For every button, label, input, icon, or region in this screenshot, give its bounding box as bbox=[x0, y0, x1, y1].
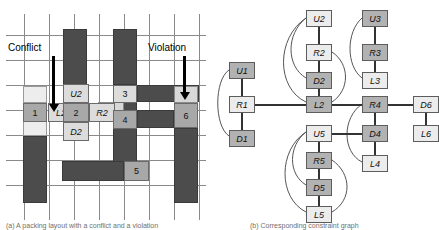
edge-U1-R1 bbox=[241, 79, 243, 96]
graph-node-L6[interactable]: L6 bbox=[413, 125, 439, 142]
cell-label-6: 6 bbox=[174, 103, 198, 128]
panel-b-caption: (b) Corresponding constraint graph bbox=[250, 222, 359, 229]
graph-node-R1[interactable]: R1 bbox=[229, 96, 255, 113]
panel-b-constraint-graph: U1 R1 D1 U2 R2 D2 L2 U3 R3 L3 R4 D4 L4 U… bbox=[210, 0, 421, 229]
graph-node-U3[interactable]: U3 bbox=[362, 10, 388, 27]
gridline-h bbox=[6, 60, 206, 61]
graph-node-D4[interactable]: D4 bbox=[362, 125, 388, 142]
edge-U3-R3 bbox=[374, 27, 376, 44]
edge-U3-L3 bbox=[350, 18, 362, 78]
piece-bar-dark bbox=[62, 161, 124, 181]
edge-D2-L2 bbox=[318, 89, 320, 96]
graph-node-U1[interactable]: U1 bbox=[229, 62, 255, 79]
piece-bar-light bbox=[23, 86, 47, 103]
edge-U2-R2 bbox=[318, 27, 320, 44]
edge-R5-L5 bbox=[332, 160, 347, 212]
edge-L2-R4 bbox=[332, 104, 362, 106]
edge-U5-D5 bbox=[293, 132, 307, 185]
edge-R3-L3 bbox=[374, 61, 376, 72]
edge-U2-D2 bbox=[291, 18, 306, 78]
cell-label-5: 5 bbox=[124, 161, 149, 181]
graph-node-U2[interactable]: U2 bbox=[306, 10, 332, 27]
edge-U5-L5 bbox=[285, 132, 306, 212]
edge-D6-L6 bbox=[425, 113, 427, 125]
edge-R5-D5 bbox=[318, 169, 320, 179]
conflict-label: Conflict bbox=[8, 42, 41, 53]
graph-node-D6[interactable]: D6 bbox=[413, 96, 439, 113]
graph-node-L2[interactable]: L2 bbox=[306, 96, 332, 113]
piece-bar-dark bbox=[63, 29, 87, 85]
piece-bar-dark bbox=[23, 136, 47, 203]
graph-node-U5[interactable]: U5 bbox=[306, 125, 332, 142]
graph-node-R5[interactable]: R5 bbox=[306, 152, 332, 169]
edge-R1-L2 bbox=[255, 104, 306, 106]
graph-node-L3[interactable]: L3 bbox=[362, 72, 388, 89]
edge-D5-L5 bbox=[318, 196, 320, 206]
violation-label: Violation bbox=[148, 42, 186, 53]
graph-node-R2[interactable]: R2 bbox=[306, 44, 332, 61]
cell-label-2: 2 bbox=[63, 103, 89, 122]
piece-bar-dark bbox=[113, 29, 137, 85]
cell-label-1: 1 bbox=[23, 103, 47, 122]
edge-R4-D6 bbox=[388, 104, 413, 106]
edge-U5-D4 bbox=[332, 133, 362, 135]
edge-R4-D4 bbox=[374, 113, 376, 125]
edge-D4-L4 bbox=[374, 142, 376, 155]
edge-U1-D1 bbox=[218, 70, 229, 136]
piece-bar-dark bbox=[137, 110, 174, 128]
gridline-h bbox=[6, 35, 206, 36]
graph-node-D2[interactable]: D2 bbox=[306, 72, 332, 89]
edge-U2-L2 bbox=[284, 18, 307, 102]
cell-label-3: 3 bbox=[113, 85, 137, 103]
graph-node-R3[interactable]: R3 bbox=[362, 44, 388, 61]
graph-node-R4[interactable]: R4 bbox=[362, 96, 388, 113]
cell-label-D2: D2 bbox=[63, 122, 89, 141]
edge-R2-D2 bbox=[318, 61, 320, 72]
graph-node-L5[interactable]: L5 bbox=[306, 206, 332, 223]
edge-R1-D1 bbox=[241, 113, 243, 130]
cell-label-4: 4 bbox=[113, 110, 137, 129]
edge-U5-R5 bbox=[318, 142, 320, 152]
cell-label-R2: R2 bbox=[89, 103, 115, 122]
graph-node-L4[interactable]: L4 bbox=[362, 155, 388, 172]
edge-R2-L2 bbox=[332, 52, 346, 102]
panel-a-packing-layout: 1 L2 U2 2 D2 R2 3 4 5 6 Conflict Violati… bbox=[0, 0, 210, 229]
panel-a-caption: (a) A packing layout with a conflict and… bbox=[6, 222, 158, 229]
gridline-v bbox=[199, 14, 200, 220]
graph-node-D1[interactable]: D1 bbox=[229, 130, 255, 147]
graph-node-D5[interactable]: D5 bbox=[306, 179, 332, 196]
piece-bar-dark bbox=[174, 128, 198, 203]
cell-label-U2: U2 bbox=[63, 84, 89, 103]
